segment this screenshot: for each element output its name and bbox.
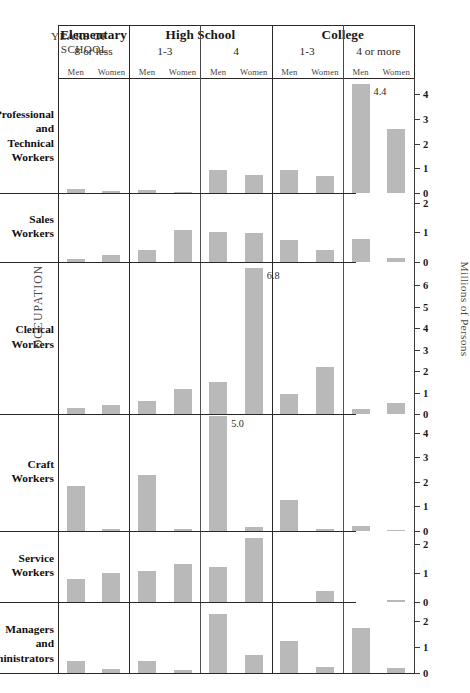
y-axis-tick (414, 506, 420, 507)
column-subheader-years: 1-3 (272, 45, 343, 57)
column-header-1: 1-3MenWomen (129, 25, 200, 78)
y-axis-tick-label: 0 (423, 409, 428, 420)
bar (67, 486, 85, 531)
occupation-axis-label: OCCUPATION (32, 247, 45, 367)
header-separator (58, 25, 59, 78)
y-axis-tick (414, 144, 420, 145)
y-axis-tick-label: 4 (423, 427, 428, 438)
y-axis-tick (414, 573, 420, 574)
gender-label-men: Men (343, 67, 379, 77)
y-axis-tick (414, 328, 420, 329)
column-subheader-years: 1-3 (129, 45, 200, 57)
bar (316, 176, 334, 193)
y-axis-tick-label: 2 (423, 476, 428, 487)
bar (245, 655, 263, 673)
bar (387, 668, 405, 673)
millions-axis-label: Millions of Persons (459, 244, 470, 374)
bar-value-label: 4.4 (374, 86, 387, 97)
y-axis-tick (414, 544, 420, 545)
gender-header-row: MenWomen (343, 67, 414, 77)
y-axis-tick-label: 0 (423, 526, 428, 537)
y-axis-tick-label: 2 (423, 616, 428, 627)
bar (316, 667, 334, 673)
bar (316, 591, 334, 602)
y-axis-tick (414, 621, 420, 622)
bar (138, 661, 156, 673)
column-header-4: 4 or moreMenWomen (343, 25, 414, 78)
y-axis-tick (414, 602, 420, 603)
bar (352, 84, 370, 193)
y-axis-tick (414, 193, 420, 194)
bar (245, 268, 263, 414)
row-baseline (0, 673, 356, 674)
bar (174, 670, 192, 673)
bar (174, 389, 192, 414)
bar (387, 403, 405, 414)
y-axis-tick-label: 0 (423, 597, 428, 608)
y-axis-tick-label: 3 (423, 114, 428, 125)
bar (138, 250, 156, 262)
bar (102, 405, 120, 414)
bar (209, 170, 227, 193)
chart-row-craft-workers: CraftWorkers (58, 414, 414, 531)
y-axis-tick (414, 350, 420, 351)
bar (138, 475, 156, 532)
y-axis-tick-label: 4 (423, 89, 428, 100)
bar (209, 614, 227, 673)
bar (245, 175, 263, 194)
y-axis-tick (414, 285, 420, 286)
gender-label-women: Women (378, 67, 414, 77)
bar (280, 240, 298, 262)
y-axis-tick (414, 393, 420, 394)
header-separator (343, 25, 344, 78)
bar (67, 661, 85, 673)
row-occupation-label: ManagersandAdministrators (0, 622, 54, 666)
chart-header: YEARS OFSCHOOLElementaryHigh SchoolColle… (58, 25, 414, 78)
y-axis-tick-label: 4 (423, 323, 428, 334)
column-subheader-years: 4 or more (343, 45, 414, 57)
bar (316, 367, 334, 414)
bar (102, 255, 120, 262)
y-axis-tick-label: 1 (423, 567, 428, 578)
gender-label-men: Men (129, 67, 165, 77)
y-axis-tick-label: 0 (423, 668, 428, 679)
bar (209, 382, 227, 414)
y-axis-tick-label: 3 (423, 452, 428, 463)
y-axis-tick (414, 673, 420, 674)
y-axis-tick-label: 2 (423, 138, 428, 149)
gender-label-men: Men (272, 67, 308, 77)
header-separator (272, 25, 273, 78)
bar (280, 500, 298, 531)
bar (209, 232, 227, 262)
y-axis-tick-label: 1 (423, 227, 428, 238)
y-axis-tick (414, 482, 420, 483)
column-subheader-years: 4 (200, 45, 271, 57)
bar (316, 250, 334, 262)
y-axis-tick-label: 1 (423, 387, 428, 398)
y-axis-tick (414, 647, 420, 648)
y-axis-tick-label: 2 (423, 197, 428, 208)
gender-label-women: Women (94, 67, 130, 77)
bar (245, 538, 263, 602)
bar (209, 416, 227, 531)
bar (138, 401, 156, 414)
gender-header-row: MenWomen (200, 67, 271, 77)
y-axis-tick-label: 1 (423, 501, 428, 512)
y-axis-tick (414, 262, 420, 263)
y-axis-tick (414, 168, 420, 169)
y-axis-tick (414, 414, 420, 415)
gender-label-men: Men (200, 67, 236, 77)
y-axis-tick (414, 119, 420, 120)
y-axis-tick-label: 3 (423, 344, 428, 355)
column-subheader-years: 8 or less (58, 45, 129, 57)
bar (174, 230, 192, 263)
y-axis-tick-label: 2 (423, 538, 428, 549)
bar (387, 129, 405, 193)
gender-header-row: MenWomen (272, 67, 343, 77)
y-axis-tick (414, 203, 420, 204)
gender-label-women: Women (236, 67, 272, 77)
gender-header-row: MenWomen (129, 67, 200, 77)
y-axis-tick-label: 5 (423, 301, 428, 312)
y-axis-tick (414, 433, 420, 434)
row-occupation-label: ClericalWorkers (0, 322, 54, 351)
